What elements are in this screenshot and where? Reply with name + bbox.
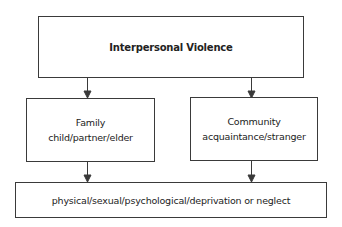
- community-title: Community: [227, 114, 280, 129]
- root-label: Interpersonal Violence: [109, 42, 232, 53]
- family-node: Family child/partner/elder: [26, 98, 155, 162]
- arrowhead-icon: [84, 91, 91, 98]
- community-subtitle: acquaintance/stranger: [202, 129, 305, 144]
- violence-types-label: physical/sexual/psychological/deprivatio…: [52, 193, 291, 208]
- arrowhead-icon: [84, 175, 91, 182]
- arrowhead-icon: [248, 175, 255, 182]
- family-title: Family: [76, 115, 105, 130]
- family-subtitle: child/partner/elder: [48, 130, 133, 145]
- community-node: Community acquaintance/stranger: [190, 97, 318, 161]
- violence-types-node: physical/sexual/psychological/deprivatio…: [15, 182, 327, 218]
- root-node: Interpersonal Violence: [38, 16, 304, 78]
